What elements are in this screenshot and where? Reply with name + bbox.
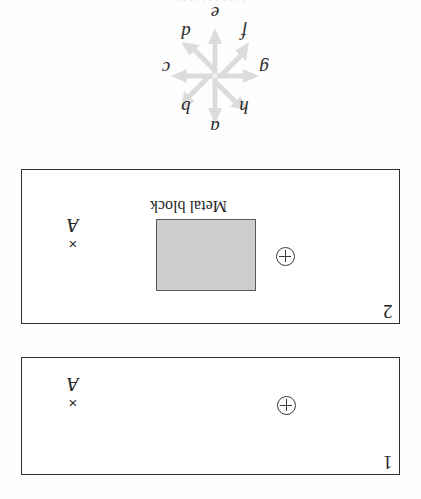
figure-canvas: · · · · · · · · · · · — [0, 0, 421, 499]
panel-2-point-a-label: A — [60, 216, 86, 235]
panel-1-frame: A × 1 — [21, 357, 400, 475]
compass-label-c: c — [156, 59, 176, 78]
panel-2-number: 2 — [383, 302, 393, 321]
panel-1-charge-marker — [277, 396, 296, 415]
compass-label-d: d — [176, 23, 196, 42]
panel-1-number: 1 — [383, 453, 393, 472]
panel-1-point-a-cross: × — [60, 395, 86, 410]
compass-label-g: g — [254, 59, 274, 78]
compass-label-f: f — [234, 23, 254, 42]
compass-label-h: h — [234, 98, 254, 117]
panel-2-charge-marker — [276, 247, 295, 266]
panel-2-point-a-cross: × — [60, 236, 86, 251]
direction-compass-rose: e d f c g b h a — [155, 4, 275, 149]
panel-1-point-a-label: A — [60, 375, 86, 394]
panel-1-point-a: A × — [60, 375, 86, 410]
compass-label-b: b — [176, 98, 196, 117]
panel-2-metal-block-caption: Metal block — [150, 198, 227, 214]
compass-label-a: a — [205, 118, 225, 137]
scan-artifact-text: · · · · · · — [0, 489, 421, 497]
panel-2-point-a: A × — [60, 216, 86, 251]
panel-2-frame: A × Metal block 2 — [21, 169, 400, 324]
panel-2-metal-block — [156, 219, 256, 291]
compass-label-e: e — [205, 4, 225, 23]
